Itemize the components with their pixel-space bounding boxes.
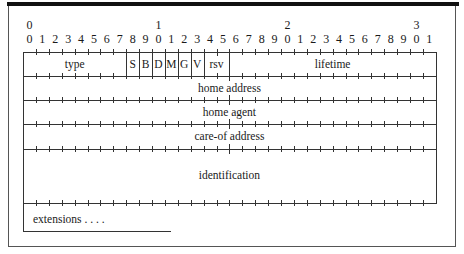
bit-tick: [384, 200, 385, 206]
ruler-unit-digit: 9: [140, 33, 152, 45]
bit-tick: [371, 73, 372, 79]
bit-tick: [358, 49, 359, 55]
bit-tick: [268, 146, 269, 152]
bit-tick: [242, 97, 243, 103]
ruler-unit-digit: 4: [204, 33, 216, 45]
ruler-unit-digit: 1: [165, 33, 177, 45]
bit-tick: [255, 121, 256, 127]
bit-tick: [75, 200, 76, 206]
bit-tick: [139, 121, 140, 127]
ruler-unit-digit: 4: [333, 33, 345, 45]
bit-tick: [307, 121, 308, 127]
bit-tick: [88, 121, 89, 127]
bit-tick: [49, 121, 50, 127]
bit-tick: [75, 73, 76, 79]
bit-tick: [268, 121, 269, 127]
bit-tick: [410, 200, 411, 206]
bit-tick: [204, 97, 205, 103]
bit-tick: [36, 200, 37, 206]
ruler-unit-digit: 4: [75, 33, 87, 45]
ruler-unit-digit: 6: [359, 33, 371, 45]
bit-tick: [397, 200, 398, 206]
bit-tick: [191, 146, 192, 152]
bit-tick: [88, 97, 89, 103]
bit-tick: [100, 200, 101, 206]
bit-tick: [191, 200, 192, 206]
bit-tick: [49, 97, 50, 103]
ruler-tens-digit: 3: [410, 19, 422, 31]
bit-tick: [320, 146, 321, 152]
ruler-unit-digit: 8: [127, 33, 139, 45]
bit-tick: [178, 121, 179, 127]
bit-tick: [36, 146, 37, 152]
bit-tick: [346, 121, 347, 127]
ruler-unit-digit: 8: [256, 33, 268, 45]
bit-tick: [358, 121, 359, 127]
bit-tick: [320, 97, 321, 103]
bit-tick: [36, 49, 37, 55]
bit-tick: [75, 146, 76, 152]
bit-tick: [294, 73, 295, 79]
bit-tick: [152, 97, 153, 103]
bit-tick: [100, 97, 101, 103]
bit-tick: [152, 121, 153, 127]
bit-tick: [333, 97, 334, 103]
bit-tick: [255, 97, 256, 103]
bit-tick: [152, 200, 153, 206]
ruler-unit-digit: 3: [191, 33, 203, 45]
bit-tick: [49, 49, 50, 55]
bit-tick: [423, 146, 424, 152]
bit-tick: [423, 73, 424, 79]
bit-tick: [126, 146, 127, 152]
bit-tick: [242, 146, 243, 152]
bit-tick: [255, 49, 256, 55]
bit-tick: [165, 97, 166, 103]
box-right-edge: [436, 52, 437, 204]
bit-tick: [113, 97, 114, 103]
bit-tick: [49, 73, 50, 79]
bit-tick: [88, 200, 89, 206]
bit-tick: [268, 97, 269, 103]
bit-tick: [410, 121, 411, 127]
bit-tick: [126, 200, 127, 206]
bit-tick: [281, 121, 282, 127]
bit-tick: [281, 146, 282, 152]
bit-tick: [294, 121, 295, 127]
bit-tick: [62, 121, 63, 127]
bit-tick: [333, 73, 334, 79]
bit-tick: [204, 200, 205, 206]
field-identification: identification: [23, 169, 436, 181]
field-type: type: [23, 58, 126, 70]
field-home-agent: home agent: [23, 106, 436, 118]
bit-tick: [204, 121, 205, 127]
bit-tick: [268, 73, 269, 79]
bit-tick: [217, 200, 218, 206]
bit-tick: [423, 97, 424, 103]
bit-tick: [358, 97, 359, 103]
bit-tick: [113, 49, 114, 55]
bit-tick: [75, 97, 76, 103]
bit-tick: [229, 119, 230, 129]
ruler-unit-digit: 2: [49, 33, 61, 45]
field-care-of-address: care-of address: [23, 130, 436, 142]
ruler-unit-digit: 0: [281, 33, 293, 45]
ruler-unit-digit: 7: [243, 33, 255, 45]
bit-tick: [410, 97, 411, 103]
bit-tick: [268, 49, 269, 55]
ruler-unit-digit: 7: [114, 33, 126, 45]
bit-tick: [62, 146, 63, 152]
field-S: S: [126, 58, 139, 70]
bit-tick: [100, 146, 101, 152]
bit-tick: [62, 73, 63, 79]
field-V: V: [191, 58, 204, 70]
bit-tick: [320, 73, 321, 79]
bit-tick: [410, 49, 411, 55]
ruler-unit-digit: 9: [398, 33, 410, 45]
bit-tick: [371, 200, 372, 206]
bit-tick: [165, 146, 166, 152]
bit-tick: [165, 200, 166, 206]
bit-tick: [307, 49, 308, 55]
ruler-unit-digit: 6: [101, 33, 113, 45]
field-lifetime: lifetime: [229, 58, 435, 70]
field-B: B: [139, 58, 152, 70]
